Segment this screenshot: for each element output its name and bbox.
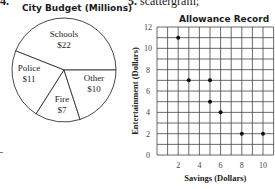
data-point — [187, 78, 191, 82]
y-tick-label: 6 — [146, 87, 150, 96]
y-tick-label: 2 — [146, 130, 150, 139]
data-point — [208, 78, 212, 82]
data-point — [219, 110, 223, 114]
x-tick-label: 4 — [197, 161, 201, 170]
y-tick-label: 0 — [146, 151, 150, 160]
x-axis-label: Savings (Dollars) — [184, 173, 246, 183]
y-tick-label: 8 — [146, 66, 150, 75]
x-tick-label: 10 — [259, 161, 267, 170]
scatter-chart: 024681012246810Savings (Dollars)Entertai… — [0, 0, 275, 189]
y-tick-label: 10 — [144, 44, 152, 53]
data-point — [261, 132, 265, 136]
data-point — [208, 100, 212, 104]
x-tick-label: 8 — [240, 161, 244, 170]
x-tick-label: 6 — [219, 161, 223, 170]
x-tick-label: 2 — [176, 161, 180, 170]
data-point — [176, 36, 180, 40]
y-tick-label: 12 — [144, 23, 152, 32]
y-tick-label: 4 — [146, 108, 150, 117]
data-point — [240, 132, 244, 136]
y-axis-label: Entertainment (Dollars) — [130, 47, 140, 135]
